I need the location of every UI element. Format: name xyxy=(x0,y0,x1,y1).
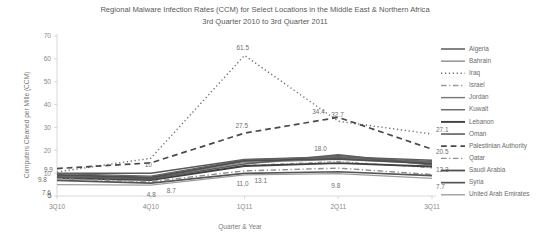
data-point-label: 61.5 xyxy=(237,44,250,51)
y-tick-label: 60 xyxy=(44,55,52,62)
legend-label-israel: Israel xyxy=(469,81,485,88)
legend-label-kuwait: Kuwait xyxy=(469,105,488,112)
legend-item-qatar[interactable]: Qatar xyxy=(441,154,486,162)
data-point-label: 10 xyxy=(145,161,153,168)
data-point-label: 27.1 xyxy=(436,126,449,133)
y-tick-label: 30 xyxy=(44,124,52,131)
data-point-label: 8.7 xyxy=(167,187,176,194)
data-point-label: 9.8 xyxy=(38,176,47,183)
legend-item-palestinian-authority[interactable]: Palestinian Authority xyxy=(441,142,528,150)
series-layer xyxy=(57,55,432,185)
legend-item-united-arab-emirates[interactable]: United Arab Emirates xyxy=(441,190,529,197)
legend-item-saudi-arabia[interactable]: Saudi Arabia xyxy=(441,166,506,173)
legend-label-algeria: Algeria xyxy=(469,45,489,53)
data-point-label: 4.8 xyxy=(147,191,156,198)
malware-infection-rate-chart: Regional Malware Infection Rates (CCM) f… xyxy=(0,0,553,238)
data-point-label: 11.0 xyxy=(237,180,249,187)
legend-label-syria: Syria xyxy=(469,178,484,186)
x-axis-label: Quarter & Year xyxy=(218,223,262,231)
legend-label-iraq: Iraq xyxy=(469,69,480,77)
data-point-label: 9.9 xyxy=(44,166,53,173)
x-axis: 3Q104Q101Q112Q113Q11 xyxy=(49,196,440,211)
y-tick-label: 20 xyxy=(44,147,52,154)
data-point-label: 27.5 xyxy=(236,122,249,129)
legend-item-syria[interactable]: Syria xyxy=(441,178,484,186)
x-tick-label: 3Q11 xyxy=(424,203,440,211)
chart-title: Regional Malware Infection Rates (CCM) f… xyxy=(100,5,430,14)
legend-label-bahrain: Bahrain xyxy=(469,57,491,64)
legend-label-saudi-arabia: Saudi Arabia xyxy=(469,166,506,173)
data-point-label: 12.3 xyxy=(436,166,449,173)
x-tick-label: 3Q10 xyxy=(49,203,65,211)
legend-label-oman: Oman xyxy=(469,130,487,137)
legend-item-lebanon[interactable]: Lebanon xyxy=(441,118,494,125)
y-tick-label: 50 xyxy=(44,78,52,85)
x-tick-label: 4Q10 xyxy=(143,203,159,211)
y-axis: 010203040506070 xyxy=(44,32,57,199)
legend-item-israel[interactable]: Israel xyxy=(441,81,485,88)
legend-item-kuwait[interactable]: Kuwait xyxy=(441,105,488,112)
y-tick-label: 70 xyxy=(44,32,52,39)
legend-item-jordan[interactable]: Jordan xyxy=(441,93,489,100)
y-tick-label: 40 xyxy=(44,101,52,108)
chart-title-group: Regional Malware Infection Rates (CCM) f… xyxy=(100,5,430,26)
chart-subtitle: 3rd Quarter 2010 to 3rd Quarter 2011 xyxy=(202,17,328,26)
legend-label-qatar: Qatar xyxy=(469,154,486,162)
data-point-label: 9.8 xyxy=(331,182,340,189)
x-tick-label: 1Q11 xyxy=(237,203,253,211)
data-point-label: 20.5 xyxy=(436,148,449,155)
legend-label-palestinian-authority: Palestinian Authority xyxy=(469,142,528,150)
data-point-label: 5 xyxy=(48,192,52,199)
legend-label-lebanon: Lebanon xyxy=(469,118,494,125)
chart-legend: AlgeriaBahrainIraqIsraelJordanKuwaitLeba… xyxy=(441,45,529,198)
data-point-label: 32.7 xyxy=(331,111,344,118)
data-point-label: 34.4 xyxy=(312,108,325,115)
data-point-label: 13.1 xyxy=(255,177,268,184)
legend-item-bahrain[interactable]: Bahrain xyxy=(441,57,491,64)
legend-item-algeria[interactable]: Algeria xyxy=(441,45,489,53)
legend-label-jordan: Jordan xyxy=(469,93,489,100)
x-tick-label: 2Q11 xyxy=(330,203,346,211)
data-point-label: 7.7 xyxy=(436,183,445,190)
legend-label-united-arab-emirates: United Arab Emirates xyxy=(469,190,529,197)
data-point-label: 18.0 xyxy=(314,145,327,152)
y-axis-label: Computers Cleaned per Mille (CCM) xyxy=(23,72,31,179)
series-line-iraq xyxy=(57,55,432,172)
legend-item-iraq[interactable]: Iraq xyxy=(441,69,480,77)
